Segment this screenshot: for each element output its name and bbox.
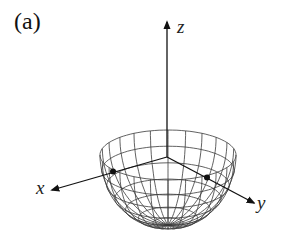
- diagram-canvas: [0, 0, 286, 251]
- mesh-meridian: [100, 155, 168, 225]
- z-axis-label: z: [177, 17, 184, 36]
- y-axis-label: y: [257, 193, 265, 212]
- hemisphere-diagram: (a) z x y: [0, 0, 286, 251]
- x-axis-label: x: [36, 178, 44, 197]
- hemisphere-mesh: [100, 130, 236, 229]
- x-axis: [52, 157, 167, 190]
- y-axis-rim-point: [204, 175, 210, 181]
- mesh-meridian: [168, 155, 236, 225]
- x-axis-rim-point: [110, 169, 116, 175]
- panel-label: (a): [14, 8, 41, 35]
